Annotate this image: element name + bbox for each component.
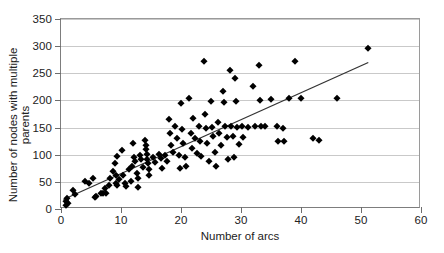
y-axis-tick bbox=[55, 100, 61, 101]
x-axis-tick-label: 0 bbox=[58, 214, 65, 226]
y-axis-title: Number of nodes with multiple parents bbox=[7, 27, 31, 223]
y-axis-tick-label: 150 bbox=[33, 122, 53, 134]
x-axis-tick-label: 10 bbox=[115, 214, 128, 226]
x-axis-tick bbox=[241, 207, 242, 213]
scatter-chart-figure: Number of nodes with multiple parents 05… bbox=[0, 0, 444, 253]
y-axis-tick-label: 300 bbox=[33, 40, 53, 52]
x-axis-tick bbox=[61, 207, 62, 213]
y-axis-tick-label: 0 bbox=[46, 203, 53, 215]
y-axis-tick-label: 250 bbox=[33, 67, 53, 79]
y-axis-tick bbox=[55, 128, 61, 129]
y-axis-tick-label: 50 bbox=[39, 176, 52, 188]
x-axis-tick bbox=[421, 207, 422, 213]
x-axis-tick bbox=[181, 207, 182, 213]
x-axis-tick-label: 20 bbox=[175, 214, 188, 226]
y-axis-tick-label: 200 bbox=[33, 94, 53, 106]
y-axis-tick bbox=[55, 19, 61, 20]
x-axis-tick bbox=[301, 207, 302, 213]
x-axis-tick-label: 40 bbox=[295, 214, 308, 226]
x-axis-tick-label: 30 bbox=[235, 214, 248, 226]
x-axis-tick bbox=[121, 207, 122, 213]
x-axis-title: Number of arcs bbox=[60, 230, 420, 242]
y-axis-tick bbox=[55, 46, 61, 47]
x-axis-tick bbox=[361, 207, 362, 213]
y-axis-tick bbox=[55, 73, 61, 74]
y-axis-tick-label: 350 bbox=[33, 13, 53, 25]
plot-area: 050100150200250300350 0102030405060 bbox=[60, 18, 420, 208]
y-axis-tick bbox=[55, 155, 61, 156]
y-axis-tick-label: 100 bbox=[33, 149, 53, 161]
x-axis-tick-label: 50 bbox=[355, 214, 368, 226]
y-axis-tick bbox=[55, 182, 61, 183]
x-axis-tick-label: 60 bbox=[415, 214, 428, 226]
